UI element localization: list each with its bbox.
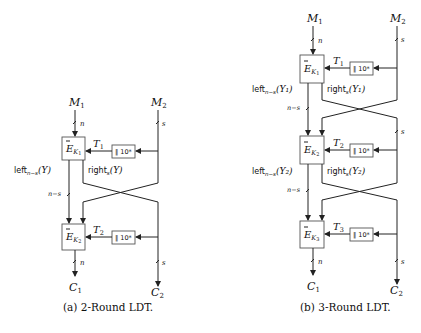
wire-label-n: n: [80, 259, 85, 267]
wire-label-s: s: [401, 128, 405, 136]
left-output-label: leftn−s(Y): [14, 165, 51, 176]
pad-label-2: ∥ 10*: [115, 234, 133, 242]
tweak-label-t2: T2: [93, 224, 104, 237]
wire-cross-left-2: [322, 183, 397, 220]
ldt-diagrams: M1 M2 n s EK1 ∥ 10* T1 leftn−s(Y) rights…: [0, 0, 421, 333]
input-m1: M1: [68, 96, 85, 110]
figure-b-3-round-ldt: M1 M2 n s EK1 ∥ 10* T1 leftn−s(Y₁) right…: [252, 12, 406, 313]
pad-label-2: ∥ 10*: [353, 147, 371, 155]
right-output-label-1: rights(Y₁): [327, 84, 366, 95]
wire-label-s: s: [162, 120, 166, 128]
wire-label-n: n: [80, 120, 85, 128]
input-m1: M1: [306, 12, 323, 26]
right-output-label-2: rights(Y₂): [327, 166, 366, 177]
output-c1: C1: [69, 281, 82, 295]
input-m2: M2: [150, 96, 167, 110]
wire-label-n: n: [318, 37, 323, 45]
wire-label-s: s: [162, 259, 166, 267]
wire-label-n-minus-s: n−s: [287, 104, 301, 112]
wire-label-n-minus-s: n−s: [48, 190, 62, 198]
wire-cross-left: [83, 183, 158, 223]
tweak-label-t1: T1: [93, 138, 104, 151]
pad-label-1: ∥ 10*: [115, 148, 133, 156]
right-output-label: rights(Y): [88, 165, 123, 176]
wire-cross-left-1: [322, 100, 397, 135]
output-c2: C2: [151, 286, 164, 300]
caption-b: (b) 3-Round LDT.: [300, 301, 390, 313]
wire-label-n: n: [318, 258, 323, 266]
wire-label-s: s: [401, 258, 405, 266]
output-c1: C1: [307, 280, 320, 294]
figure-a-2-round-ldt: M1 M2 n s EK1 ∥ 10* T1 leftn−s(Y) rights…: [14, 96, 167, 313]
caption-a: (a) 2-Round LDT.: [63, 301, 153, 313]
wire-cross-right: [83, 160, 158, 286]
output-c2: C2: [390, 284, 403, 298]
tweak-label-t2: T2: [333, 137, 344, 150]
wire-label-s: s: [401, 36, 405, 44]
tweak-label-t3: T3: [333, 221, 344, 234]
pad-label-1: ∥ 10*: [353, 65, 371, 73]
left-output-label-2: leftn−s(Y₂): [252, 166, 293, 177]
left-output-label-1: leftn−s(Y₁): [252, 84, 293, 95]
tweak-label-t1: T1: [333, 55, 344, 68]
pad-label-3: ∥ 10*: [353, 231, 371, 239]
input-m2: M2: [389, 12, 406, 26]
wire-label-n-minus-s: n−s: [287, 186, 301, 194]
